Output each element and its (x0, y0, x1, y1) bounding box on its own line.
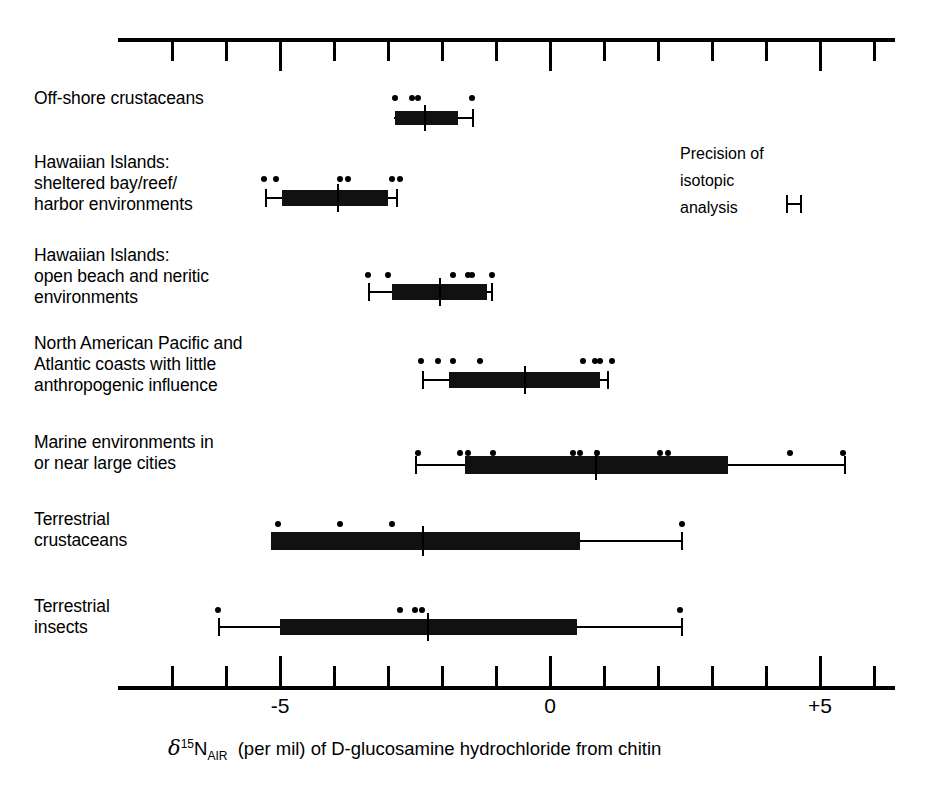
data-point (337, 521, 343, 527)
data-point (457, 450, 463, 456)
axis-tick-3 (711, 41, 714, 61)
axis-tick-minus7 (171, 666, 174, 686)
data-point (419, 607, 425, 613)
box-iqr (271, 532, 580, 550)
data-point (389, 521, 395, 527)
precision-legend-line-1: Precision of (680, 140, 800, 167)
whisker-cap-high (491, 283, 493, 301)
data-point (409, 95, 415, 101)
data-point (418, 358, 424, 364)
axis-tick-minus4 (333, 666, 336, 686)
box-iqr (282, 190, 388, 206)
category-label-terrestrial-crustaceans: Terrestrial crustaceans (34, 509, 127, 551)
axis-tick-4 (765, 666, 768, 686)
box-iqr (395, 111, 458, 125)
axis-tick-6 (873, 666, 876, 686)
category-label-offshore-crustaceans: Off-shore crustaceans (34, 88, 204, 109)
data-point (215, 607, 221, 613)
precision-legend-line-3: analysis (680, 194, 800, 221)
median-line (422, 526, 424, 556)
axis-tick-minus1 (495, 666, 498, 686)
whisker-cap-high (681, 618, 683, 636)
delta-symbol: δ (168, 736, 181, 760)
category-label-hawaiian-sheltered: Hawaiian Islands: sheltered bay/reef/ ha… (34, 152, 193, 215)
axis-tick-minus6 (225, 41, 228, 61)
data-point (415, 95, 421, 101)
data-point (679, 521, 685, 527)
category-label-terrestrial-insects: Terrestrial insects (34, 596, 110, 638)
data-point (275, 521, 281, 527)
data-point (365, 272, 371, 278)
axis-tick-0 (549, 41, 552, 71)
whisker-cap-high (681, 532, 683, 550)
axis-tick-6 (873, 41, 876, 61)
axis-tick-minus4 (333, 41, 336, 61)
data-point (609, 358, 615, 364)
whisker-cap-high (607, 371, 609, 389)
axis-tick-0 (549, 656, 552, 686)
data-point (489, 272, 495, 278)
axis-tick-3 (711, 666, 714, 686)
data-point (389, 176, 395, 182)
data-point (337, 176, 343, 182)
data-point (469, 95, 475, 101)
data-point (469, 272, 475, 278)
axis-tick-minus5 (279, 41, 282, 71)
x-axis-title: δ15NAIR (per mil) of D-glucosamine hydro… (168, 736, 661, 763)
data-point (385, 272, 391, 278)
data-point (450, 272, 456, 278)
axis-tick-minus3 (387, 41, 390, 61)
whisker-cap-high (472, 109, 474, 127)
bottom-axis-line (118, 686, 895, 690)
median-line (439, 278, 441, 306)
axis-tick-minus5 (279, 656, 282, 686)
data-point (435, 358, 441, 364)
top-axis-line (118, 38, 895, 42)
whisker-cap-low (368, 283, 370, 301)
axis-tick-4 (765, 41, 768, 61)
axis-tick-minus3 (387, 666, 390, 686)
axis-tick-1 (603, 666, 606, 686)
data-point (580, 358, 586, 364)
mass-number: 15 (181, 737, 194, 751)
data-point (677, 607, 683, 613)
data-point (345, 176, 351, 182)
axis-tick-5 (819, 656, 822, 686)
data-point (477, 358, 483, 364)
data-point (261, 176, 267, 182)
axis-tick-5 (819, 41, 822, 71)
category-label-marine-near-cities: Marine environments in or near large cit… (34, 432, 214, 474)
xtick-label-minus5: -5 (250, 694, 310, 718)
whisker-cap-low (265, 189, 267, 207)
data-point (397, 607, 403, 613)
axis-tick-2 (657, 41, 660, 61)
data-point (450, 358, 456, 364)
median-line (424, 105, 426, 131)
precision-legend-line-2: isotopic (680, 167, 800, 194)
whisker-cap-low (218, 618, 220, 636)
median-line (337, 184, 339, 212)
data-point (597, 358, 603, 364)
median-line (427, 613, 429, 641)
data-point (490, 450, 496, 456)
xtick-label-plus5: +5 (790, 694, 850, 718)
axis-tick-1 (603, 41, 606, 61)
axis-tick-2 (657, 666, 660, 686)
precision-legend: Precision of isotopic analysis (680, 140, 800, 221)
axis-tick-minus2 (441, 666, 444, 686)
axis-tick-minus1 (495, 41, 498, 61)
air-subscript: AIR (207, 749, 227, 763)
data-point (392, 95, 398, 101)
category-label-north-american-coasts: North American Pacific and Atlantic coas… (34, 333, 242, 396)
data-point (397, 176, 403, 182)
data-point (594, 450, 600, 456)
data-point (465, 450, 471, 456)
category-label-hawaiian-open-beach: Hawaiian Islands: open beach and neritic… (34, 245, 209, 308)
data-point (273, 176, 279, 182)
data-point (412, 607, 418, 613)
chart-figure: Off-shore crustaceans Hawaiian Islands: … (0, 0, 936, 785)
median-line (524, 366, 526, 394)
whisker-cap-high (396, 189, 398, 207)
whisker-cap-low (415, 456, 417, 474)
axis-tick-minus2 (441, 41, 444, 61)
